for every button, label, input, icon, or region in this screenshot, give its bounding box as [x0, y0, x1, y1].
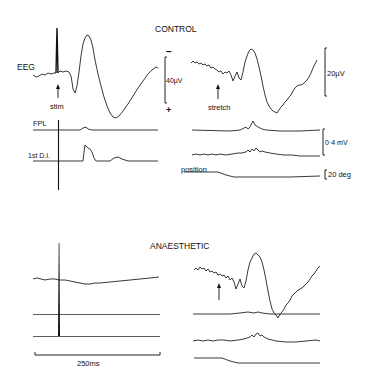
figure: CONTROL EEG stim − 40µV + FPL 1st D.I. s…	[0, 0, 368, 381]
stim-label: stim	[50, 102, 64, 111]
stretch-label: stretch	[208, 103, 231, 112]
first-di-label: 1st D.I.	[28, 152, 50, 159]
scale-20uv-label: 20µV	[327, 69, 345, 78]
anaesthetic-stretch-eeg-trace	[194, 253, 320, 318]
control-stim-di-trace	[33, 145, 158, 161]
anaesthetic-title: ANAESTHETIC	[150, 241, 210, 251]
anaesthetic-stretch-di-trace	[193, 333, 320, 342]
scale-250ms-label: 250ms	[77, 359, 100, 368]
scale-bar-250ms	[35, 352, 160, 355]
fpl-label: FPL	[33, 119, 47, 128]
scale-positive-sign: +	[166, 105, 171, 115]
control-stretch-di-trace	[192, 148, 320, 156]
anaesthetic-stim-eeg-trace	[33, 277, 159, 284]
anaesthetic-stretch-fpl-trace	[193, 312, 320, 314]
control-title: CONTROL	[155, 24, 197, 34]
scale-negative-sign: −	[166, 46, 172, 57]
stim-arrow-icon	[56, 84, 60, 98]
scale-40uv-label: 40µV	[166, 77, 183, 85]
eeg-label: EEG	[17, 62, 35, 72]
control-stim-fpl-trace	[33, 127, 158, 130]
scale-bar-20deg	[325, 170, 327, 179]
anaesthetic-stretch-arrow-icon	[217, 283, 221, 300]
stretch-arrow-icon	[216, 84, 220, 99]
anaesthetic-stim-artefact	[58, 243, 60, 336]
scale-20deg-label: 20 deg	[328, 170, 351, 179]
anaesthetic-position-trace	[194, 358, 320, 363]
position-label: position	[181, 165, 207, 174]
control-stretch-fpl-trace	[192, 121, 320, 131]
scale-0-4mv-label: 0·4 mV	[325, 139, 348, 146]
